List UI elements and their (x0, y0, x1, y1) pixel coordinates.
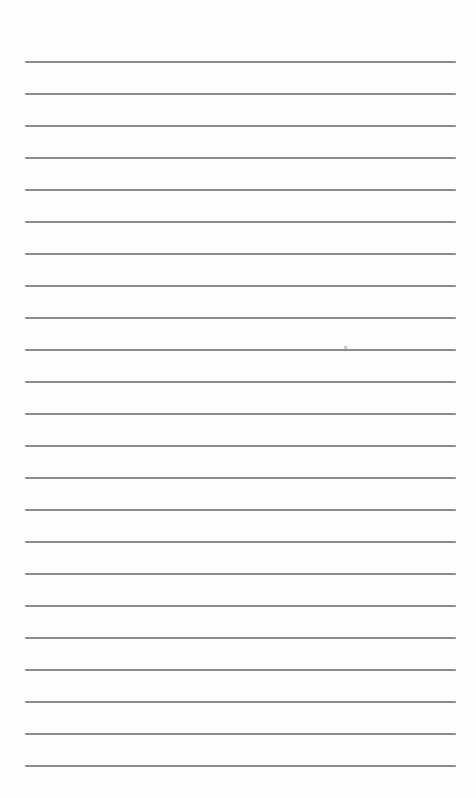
ruled-line (25, 61, 456, 63)
ruled-line (25, 157, 456, 159)
ruled-line (25, 477, 456, 479)
ruled-line (25, 573, 456, 575)
ruled-line (25, 605, 456, 607)
ruled-line (25, 349, 456, 351)
ruled-line (25, 413, 456, 415)
lined-paper-page (0, 0, 476, 798)
ruled-line (25, 317, 456, 319)
ruled-line (25, 253, 456, 255)
ruled-line (25, 637, 456, 639)
ruled-line (25, 733, 456, 735)
ruled-line (25, 189, 456, 191)
ruled-line (25, 445, 456, 447)
ruled-line (25, 509, 456, 511)
ruled-line (25, 669, 456, 671)
ruled-line (25, 765, 456, 767)
ruled-line (25, 285, 456, 287)
ruled-line (25, 93, 456, 95)
ruled-line (25, 125, 456, 127)
ruled-line (25, 541, 456, 543)
ruled-line (25, 701, 456, 703)
ruled-line (25, 381, 456, 383)
ruled-line (25, 221, 456, 223)
